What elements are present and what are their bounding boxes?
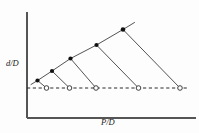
drop-line-3 [71, 59, 97, 89]
filled-marker-2 [50, 69, 54, 73]
drop-line-5 [123, 30, 180, 89]
envelope-line [31, 23, 135, 85]
envelope-line-group [31, 23, 135, 85]
y-axis-label: d/D [6, 58, 19, 68]
filled-marker-3 [68, 56, 72, 60]
filled-marker-4 [94, 43, 98, 47]
chart-figure: d/D P/D [0, 0, 199, 133]
axes-group [27, 12, 196, 118]
x-axis-label: P/D [101, 117, 115, 127]
filled-marker-5 [121, 27, 126, 32]
open-marker-1 [44, 86, 49, 91]
open-marker-5 [178, 86, 183, 91]
open-marker-4 [136, 86, 141, 91]
drop-line-4 [97, 45, 139, 88]
open-marker-3 [94, 86, 99, 91]
drop-line-2 [52, 71, 70, 88]
open-marker-2 [67, 86, 72, 91]
chart-plot-area [0, 0, 199, 133]
filled-marker-1 [35, 78, 39, 82]
